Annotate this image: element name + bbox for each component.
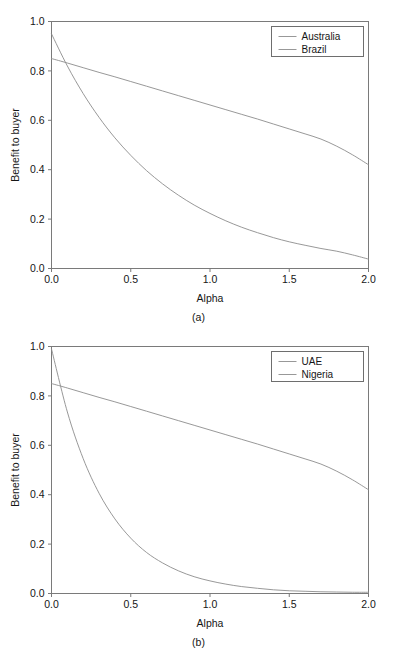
x-tick-label: 1.5 — [282, 598, 297, 610]
x-tick-label: 0.0 — [44, 273, 59, 285]
y-tick-label: 0.0 — [30, 587, 45, 599]
y-tick-label: 0.4 — [30, 488, 45, 500]
y-tick-label: 0.4 — [30, 163, 45, 175]
x-axis-title: Alpha — [197, 617, 224, 629]
series-line-uae — [52, 384, 369, 490]
y-tick-label: 0.6 — [30, 439, 45, 451]
y-axis-title: Benefit to buyer — [9, 433, 21, 507]
y-tick-label: 0.8 — [30, 390, 45, 402]
x-tick-label: 1.0 — [203, 598, 218, 610]
plot-frame — [52, 347, 369, 594]
legend-label-uae: UAE — [302, 356, 323, 367]
x-tick-label: 2.0 — [361, 273, 376, 285]
y-axis-title: Benefit to buyer — [9, 108, 21, 182]
x-axis-title: Alpha — [197, 292, 224, 304]
panel-caption: (a) — [192, 311, 205, 323]
legend-label-australia: Australia — [302, 31, 341, 42]
y-tick-label: 0.0 — [30, 262, 45, 274]
panel-caption: (b) — [192, 636, 205, 648]
plot-frame — [52, 22, 369, 269]
y-tick-label: 1.0 — [30, 15, 45, 27]
series-line-nigeria — [52, 349, 369, 592]
y-tick-label: 0.6 — [30, 114, 45, 126]
x-tick-label: 0.5 — [123, 598, 138, 610]
x-tick-label: 0.0 — [44, 598, 59, 610]
chart-b-canvas: 0.00.51.01.52.00.00.20.40.60.81.0AlphaBe… — [0, 325, 397, 650]
chart-panel-b: 0.00.51.01.52.00.00.20.40.60.81.0AlphaBe… — [0, 325, 397, 650]
legend-label-brazil: Brazil — [302, 44, 327, 55]
y-tick-label: 1.0 — [30, 340, 45, 352]
y-tick-label: 0.2 — [30, 538, 45, 550]
x-tick-label: 0.5 — [123, 273, 138, 285]
y-tick-label: 0.2 — [30, 213, 45, 225]
chart-a-canvas: 0.00.51.01.52.00.00.20.40.60.81.0AlphaBe… — [0, 0, 397, 325]
series-line-brazil — [52, 34, 369, 259]
series-line-australia — [52, 59, 369, 165]
chart-panel-a: 0.00.51.01.52.00.00.20.40.60.81.0AlphaBe… — [0, 0, 397, 325]
x-tick-label: 2.0 — [361, 598, 376, 610]
x-tick-label: 1.0 — [203, 273, 218, 285]
legend-label-nigeria: Nigeria — [302, 369, 334, 380]
x-tick-label: 1.5 — [282, 273, 297, 285]
y-tick-label: 0.8 — [30, 65, 45, 77]
